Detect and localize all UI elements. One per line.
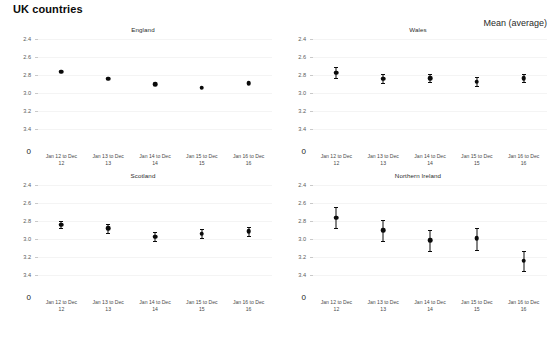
error-bar-cap <box>428 251 432 252</box>
data-point-marker[interactable] <box>106 77 111 82</box>
x-tick-line2: 13 <box>367 306 398 313</box>
data-point-marker[interactable] <box>334 70 339 75</box>
x-tick-line2: 16 <box>233 160 264 167</box>
data-point-marker[interactable] <box>246 81 251 86</box>
x-tick-line1: Jan 14 to Dec <box>414 153 445 160</box>
error-bar-cap <box>475 250 479 251</box>
error-bar-cap <box>475 77 479 78</box>
data-point-marker[interactable] <box>153 234 158 239</box>
error-bar-cap <box>153 241 157 242</box>
gridline <box>313 275 547 276</box>
gridline <box>38 221 272 222</box>
y-tickmark <box>310 93 313 94</box>
gridline <box>38 129 272 130</box>
y-tickmark <box>310 57 313 58</box>
x-axis-tick-label: Jan 15 to Dec15 <box>186 299 217 313</box>
y-tickmark <box>35 203 38 204</box>
x-axis-tick-label: Jan 12 to Dec12 <box>321 299 352 313</box>
y-axis-label: 3.0 <box>284 90 306 96</box>
x-axis-tick-label: Jan 14 to Dec14 <box>139 299 170 313</box>
y-tickmark <box>35 57 38 58</box>
x-tick-line2: 14 <box>139 160 170 167</box>
data-point-marker[interactable] <box>59 223 64 228</box>
error-bar-cap <box>106 224 110 225</box>
y-tickmark <box>310 111 313 112</box>
x-tick-line2: 15 <box>186 160 217 167</box>
x-tick-line2: 16 <box>508 306 539 313</box>
x-axis-tick-label: Jan 13 to Dec13 <box>367 153 398 167</box>
x-tick-line1: Jan 15 to Dec <box>186 299 217 306</box>
x-tick-line2: 14 <box>414 306 445 313</box>
x-tick-line1: Jan 13 to Dec <box>367 153 398 160</box>
error-bar-cap <box>428 82 432 83</box>
error-bar-cap <box>381 74 385 75</box>
x-tick-line1: Jan 16 to Dec <box>233 153 264 160</box>
data-point-marker[interactable] <box>153 82 158 87</box>
x-axis-tick-label: Jan 15 to Dec15 <box>186 153 217 167</box>
y-tickmark <box>35 257 38 258</box>
x-tick-line2: 13 <box>92 306 123 313</box>
y-axis-label: 2.8 <box>284 72 306 78</box>
x-axis-tick-label: Jan 13 to Dec13 <box>367 299 398 313</box>
x-tick-line2: 14 <box>414 160 445 167</box>
x-tick-line2: 12 <box>46 306 77 313</box>
y-tickmark <box>35 39 38 40</box>
x-tick-line1: Jan 15 to Dec <box>461 153 492 160</box>
x-tick-line1: Jan 14 to Dec <box>139 153 170 160</box>
y-axis-label: 3.2 <box>9 254 31 260</box>
data-point-marker[interactable] <box>200 86 205 91</box>
y-axis-label: 3.0 <box>9 236 31 242</box>
x-tick-line2: 15 <box>461 160 492 167</box>
data-point-marker[interactable] <box>381 228 386 233</box>
panel-title: Northern Ireland <box>283 172 553 179</box>
error-bar-cap <box>59 228 63 229</box>
gridline <box>38 75 272 76</box>
y-tickmark <box>35 275 38 276</box>
data-point-marker[interactable] <box>59 69 64 74</box>
x-tick-line2: 12 <box>321 306 352 313</box>
x-tick-line2: 12 <box>321 160 352 167</box>
data-point-marker[interactable] <box>246 229 251 234</box>
error-bar-cap <box>475 228 479 229</box>
error-bar-cap <box>334 67 338 68</box>
x-axis-tick-label: Jan 14 to Dec14 <box>139 153 170 167</box>
y-axis-zero-label: 0 <box>284 293 306 302</box>
error-bar-cap <box>381 83 385 84</box>
y-tickmark <box>310 39 313 40</box>
data-point-marker[interactable] <box>428 76 433 81</box>
y-axis-label: 3.2 <box>9 108 31 114</box>
gridline <box>38 57 272 58</box>
gridline <box>38 257 272 258</box>
data-point-marker[interactable] <box>106 226 111 231</box>
x-tick-line1: Jan 15 to Dec <box>461 299 492 306</box>
data-point-marker[interactable] <box>428 238 433 243</box>
gridline <box>38 93 272 94</box>
panel-title: Wales <box>283 26 553 33</box>
error-bar-cap <box>428 230 432 231</box>
x-axis-tick-label: Jan 12 to Dec12 <box>46 299 77 313</box>
error-bar-cap <box>381 241 385 242</box>
x-axis-tick-label: Jan 14 to Dec14 <box>414 153 445 167</box>
y-tickmark <box>310 221 313 222</box>
data-point-marker[interactable] <box>521 258 526 263</box>
gridline <box>313 39 547 40</box>
gridline <box>313 257 547 258</box>
x-axis-tick-label: Jan 15 to Dec15 <box>461 299 492 313</box>
y-tickmark <box>35 185 38 186</box>
data-point-marker[interactable] <box>381 77 386 82</box>
y-axis-label: 3.4 <box>284 272 306 278</box>
data-point-marker[interactable] <box>475 236 480 241</box>
y-tickmark <box>310 203 313 204</box>
y-axis-label: 3.4 <box>9 126 31 132</box>
panel-northern-ireland: Northern Ireland2.42.62.83.03.23.40Jan 1… <box>283 172 553 332</box>
y-tickmark <box>35 75 38 76</box>
data-point-marker[interactable] <box>334 215 339 220</box>
data-point-marker[interactable] <box>521 76 526 81</box>
x-tick-line1: Jan 16 to Dec <box>508 299 539 306</box>
y-axis-label: 3.4 <box>284 126 306 132</box>
data-point-marker[interactable] <box>200 232 205 237</box>
y-tickmark <box>310 275 313 276</box>
data-point-marker[interactable] <box>475 79 480 84</box>
y-axis-zero-label: 0 <box>9 293 31 302</box>
x-tick-line1: Jan 13 to Dec <box>367 299 398 306</box>
